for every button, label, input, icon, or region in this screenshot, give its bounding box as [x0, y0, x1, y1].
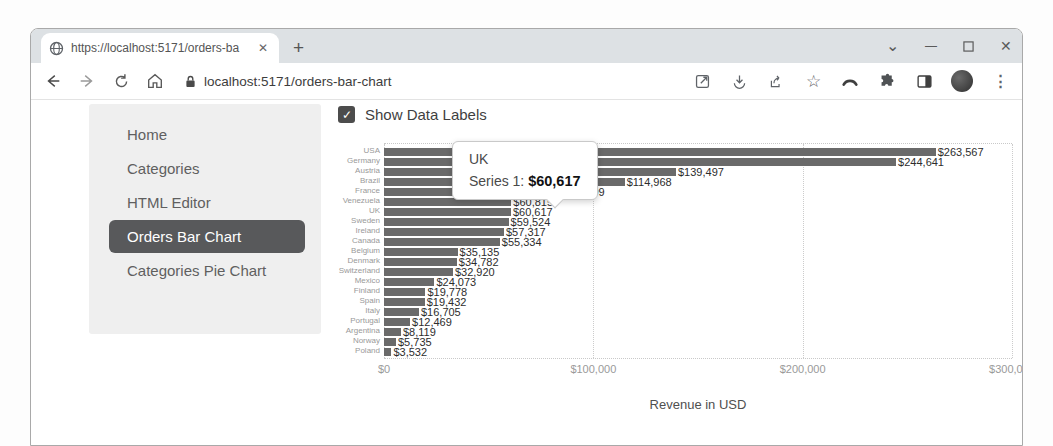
bar-portugal[interactable] [384, 318, 410, 326]
y-axis-label: Argentina [338, 326, 384, 336]
y-axis-label: Sweden [338, 216, 384, 226]
sidebar-item-categories-pie-chart[interactable]: Categories Pie Chart [109, 254, 305, 287]
bar-row: $19,432 [384, 297, 1012, 307]
bar-row: $19,778 [384, 287, 1012, 297]
x-tick-label: $300,000 [989, 363, 1023, 375]
y-axis-label: Belgium [338, 246, 384, 256]
side-panel-icon[interactable] [914, 71, 934, 91]
bar-row: $60,617 [384, 207, 1012, 217]
close-window-icon[interactable]: ✕ [1000, 39, 1012, 53]
bar-canada[interactable] [384, 238, 500, 246]
y-axis-label: Venezuela [338, 196, 384, 206]
y-axis-label: Austria [338, 166, 384, 176]
tooltip-category: UK [469, 151, 581, 167]
tab-strip: https://localhost:5171/orders-ba ✕ + ⌄ —… [31, 29, 1022, 63]
bar-sweden[interactable] [384, 218, 509, 226]
bar-norway[interactable] [384, 338, 396, 346]
tooltip-value-line: Series 1: $60,617 [469, 173, 581, 189]
bar-poland[interactable] [384, 348, 391, 356]
bookmark-star-icon[interactable]: ☆ [803, 71, 823, 91]
show-data-labels-checkbox[interactable]: ✓ [338, 106, 355, 123]
y-axis-label: Portugal [338, 316, 384, 326]
profile-avatar[interactable] [951, 70, 973, 92]
y-axis-label: Finland [338, 286, 384, 296]
show-data-labels-row: ✓ Show Data Labels [338, 106, 1022, 123]
extensions-puzzle-icon[interactable] [877, 71, 897, 91]
screenshot-frame: https://localhost:5171/orders-ba ✕ + ⌄ —… [0, 0, 1053, 446]
bar-row: $24,073 [384, 277, 1012, 287]
bar-belgium[interactable] [384, 248, 458, 256]
tab-close-icon[interactable]: ✕ [255, 41, 271, 55]
download-icon[interactable] [729, 71, 749, 91]
restore-down-icon[interactable]: ⌄ [886, 39, 899, 53]
open-in-new-icon[interactable] [692, 71, 712, 91]
y-axis-label: UK [338, 206, 384, 216]
bar-uk[interactable] [384, 208, 511, 216]
y-axis-label: Brazil [338, 176, 384, 186]
y-axis-label: USA [338, 146, 384, 156]
tooltip-value: $60,617 [528, 173, 580, 189]
main-area: ✓ Show Data Labels USAGermanyAustriaBraz… [338, 106, 1022, 446]
minimize-icon[interactable]: — [925, 39, 937, 53]
browser-navbar: localhost:5171/orders-bar-chart ☆ [31, 63, 1022, 100]
back-icon[interactable] [43, 71, 63, 91]
y-axis-label: Denmark [338, 256, 384, 266]
bar-mexico[interactable] [384, 278, 434, 286]
globe-favicon-icon [49, 41, 64, 56]
bar-ireland[interactable] [384, 228, 504, 236]
address-bar[interactable]: localhost:5171/orders-bar-chart [179, 74, 678, 89]
bar-finland[interactable] [384, 288, 425, 296]
y-axis-label: France [338, 186, 384, 196]
menu-dots-icon[interactable]: ⋮ [990, 71, 1010, 91]
new-tab-button[interactable]: + [293, 37, 304, 59]
y-axis-label: Italy [338, 306, 384, 316]
url-text: localhost:5171/orders-bar-chart [204, 74, 392, 89]
arc-icon[interactable] [840, 71, 860, 91]
y-axis-label: Spain [338, 296, 384, 306]
data-label: $139,497 [678, 168, 724, 177]
forward-icon[interactable] [77, 71, 97, 91]
y-axis-label: Poland [338, 346, 384, 356]
share-icon[interactable] [766, 71, 786, 91]
reload-icon[interactable] [111, 71, 131, 91]
plot-area: UK Series 1: $60,617 $263,567$244,641$13… [384, 143, 1012, 359]
maximize-icon[interactable] [963, 41, 974, 52]
bar-row: $3,532 [384, 347, 1012, 357]
bar-row: $16,705 [384, 307, 1012, 317]
window-controls: ⌄ — ✕ [886, 29, 1012, 63]
home-icon[interactable] [145, 71, 165, 91]
data-label: $3,532 [393, 348, 427, 357]
chart-tooltip: UK Series 1: $60,617 [452, 141, 598, 200]
show-data-labels-label: Show Data Labels [365, 106, 487, 123]
x-axis: $0$100,000$200,000$300,000 [384, 363, 1012, 381]
x-tick-label: $100,000 [570, 363, 616, 375]
x-tick-label: $0 [378, 363, 390, 375]
page-content: HomeCategoriesHTML EditorOrders Bar Char… [31, 100, 1022, 446]
bar-row: $57,317 [384, 227, 1012, 237]
sidebar-item-home[interactable]: Home [109, 118, 305, 151]
bar-switzerland[interactable] [384, 268, 453, 276]
y-axis-label: Germany [338, 156, 384, 166]
browser-window: https://localhost:5171/orders-ba ✕ + ⌄ —… [30, 28, 1023, 446]
y-axis-label: Ireland [338, 226, 384, 236]
data-label: $244,641 [898, 158, 944, 167]
sidebar-item-orders-bar-chart[interactable]: Orders Bar Chart [109, 220, 305, 253]
bar-row: $59,524 [384, 217, 1012, 227]
app-sidebar: HomeCategoriesHTML EditorOrders Bar Char… [89, 104, 321, 334]
bar-row: $12,469 [384, 317, 1012, 327]
bar-row: $8,119 [384, 327, 1012, 337]
bar-italy[interactable] [384, 308, 419, 316]
bar-row: $32,920 [384, 267, 1012, 277]
bar-spain[interactable] [384, 298, 425, 306]
bar-denmark[interactable] [384, 258, 457, 266]
x-tick-label: $200,000 [780, 363, 826, 375]
sidebar-item-categories[interactable]: Categories [109, 152, 305, 185]
y-axis-label: Canada [338, 236, 384, 246]
navbar-right-icons: ☆ ⋮ [692, 70, 1010, 92]
bar-argentina[interactable] [384, 328, 401, 336]
revenue-bar-chart: USAGermanyAustriaBrazilFranceVenezuelaUK… [338, 143, 1022, 412]
browser-tab[interactable]: https://localhost:5171/orders-ba ✕ [41, 33, 279, 63]
tab-title: https://localhost:5171/orders-ba [71, 41, 248, 55]
sidebar-item-html-editor[interactable]: HTML Editor [109, 186, 305, 219]
plot-wrap: UK Series 1: $60,617 $263,567$244,641$13… [384, 143, 1012, 412]
